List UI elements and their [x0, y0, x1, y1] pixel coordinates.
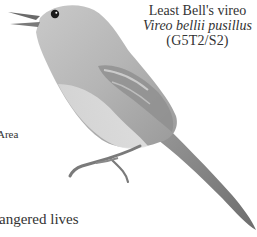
- common-name: Least Bell's vireo: [138, 3, 257, 18]
- species-caption: Least Bell's vireo Vireo bellii pusillus…: [138, 3, 257, 48]
- text-fragment-area: Area: [0, 128, 18, 140]
- text-fragment-endangered: angered lives: [0, 211, 79, 228]
- status-rank: (G5T2/S2): [138, 33, 257, 48]
- scientific-name: Vireo bellii pusillus: [138, 18, 257, 33]
- eye: [51, 10, 59, 18]
- beak: [8, 12, 40, 20]
